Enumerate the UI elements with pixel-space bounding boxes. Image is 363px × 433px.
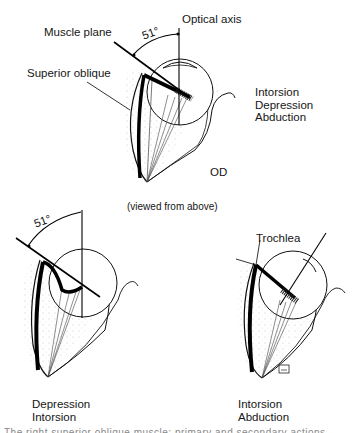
bottom-left-orbit-diagram (16, 210, 138, 377)
bottom-left-action-2: Intorsion (32, 411, 76, 424)
figure-caption-clipped: The right superior oblique muscle: prima… (4, 427, 326, 433)
optical-axis-label: Optical axis (182, 13, 241, 26)
illustrations (0, 0, 363, 433)
logo-mark-icon (279, 365, 289, 373)
trochlea-label: Trochlea (256, 232, 300, 245)
top-action-3: Abduction (255, 111, 306, 124)
bottom-right-action-1: Intorsion (238, 398, 282, 411)
bottom-left-action-1: Depression (32, 398, 90, 411)
eye-side-label: OD (210, 166, 227, 179)
muscle-plane-label: Muscle plane (44, 26, 112, 39)
superior-oblique-label: Superior oblique (27, 67, 111, 80)
top-orbit-diagram (87, 28, 235, 183)
top-action-1: Intorsion (255, 86, 299, 99)
bottom-right-action-2: Abduction (238, 411, 289, 424)
view-note-label: (viewed from above) (127, 200, 218, 213)
bottom-right-orbit-diagram (236, 233, 345, 378)
